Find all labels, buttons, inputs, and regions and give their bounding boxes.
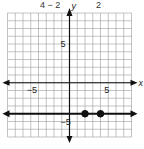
x-tick-label: 5 bbox=[104, 85, 109, 95]
x-tick-label: −5 bbox=[27, 85, 37, 95]
header-left-text: 4 − 2 bbox=[40, 0, 60, 10]
y-tick-label: 5 bbox=[61, 39, 66, 49]
y-axis-arrow-down bbox=[67, 136, 73, 143]
x-axis-label: x bbox=[138, 78, 144, 88]
y-tick-label: −5 bbox=[61, 117, 71, 127]
x-axis-arrow-right bbox=[131, 80, 138, 86]
solution-arrow-left bbox=[3, 110, 10, 117]
x-axis-arrow-left bbox=[3, 80, 10, 86]
header-right-text: 2 bbox=[96, 0, 101, 10]
solution-arrow-right bbox=[131, 110, 138, 117]
data-point bbox=[82, 110, 89, 117]
coordinate-plane: 4 − 2 2 −555−5 x y bbox=[0, 0, 143, 149]
data-point bbox=[97, 110, 104, 117]
y-axis-label: y bbox=[71, 1, 77, 11]
